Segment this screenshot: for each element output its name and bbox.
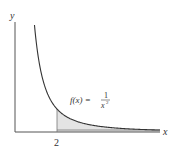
function-label-denominator: x: [100, 101, 105, 110]
function-plot: y x 2 f(x) = 1 x 2: [0, 0, 176, 154]
curve-1-over-x-squared: [34, 25, 160, 130]
function-label-exponent: 2: [106, 100, 109, 105]
function-label-lhs: f(x) =: [70, 95, 91, 105]
function-label-numerator: 1: [104, 91, 108, 100]
x-axis-label: x: [162, 126, 168, 137]
y-axis-label: y: [9, 10, 15, 21]
shaded-area: [57, 109, 160, 132]
x-tick-2-label: 2: [54, 137, 59, 148]
